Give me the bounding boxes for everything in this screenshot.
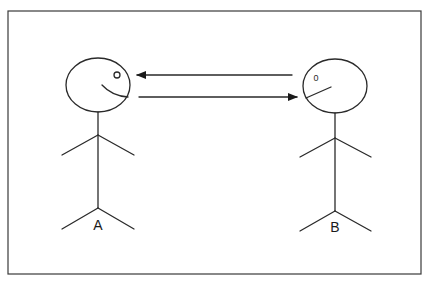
person-b: 0 B	[300, 59, 371, 235]
person-a-left-arm	[62, 135, 98, 155]
diagram-canvas: A 0 B	[0, 0, 428, 282]
diagram-frame	[8, 11, 421, 274]
person-b-right-arm	[335, 138, 371, 157]
person-a-eye	[114, 72, 120, 78]
person-a: A	[62, 58, 134, 233]
person-a-smile	[102, 85, 128, 97]
person-a-right-leg	[98, 208, 134, 229]
person-b-eye: 0	[313, 73, 318, 83]
person-b-left-arm	[300, 138, 335, 157]
person-b-label: B	[330, 219, 339, 235]
person-a-label: A	[93, 217, 103, 233]
person-b-right-leg	[335, 211, 371, 231]
person-b-head	[303, 59, 367, 113]
person-a-right-arm	[98, 135, 134, 155]
person-b-smile	[306, 87, 331, 98]
person-a-head	[66, 58, 130, 112]
